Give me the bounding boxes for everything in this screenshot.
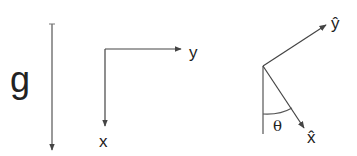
y-axis-label: y xyxy=(189,43,198,62)
gravity-group: g xyxy=(10,24,55,150)
y-hat-label: ŷ xyxy=(331,14,340,33)
theta-label: θ xyxy=(273,117,282,135)
gravity-label: g xyxy=(10,59,30,100)
x-axis-label: x xyxy=(99,132,108,151)
x-hat-label: x̂ xyxy=(307,128,316,147)
y-hat-arrow xyxy=(263,25,326,66)
fixed-axes-group: y x xyxy=(99,43,198,151)
angle-arc xyxy=(263,108,292,114)
x-hat-arrow xyxy=(263,66,304,128)
coordinate-diagram: g y x θ ŷ x̂ xyxy=(0,0,357,156)
rotated-axes-group: θ ŷ x̂ xyxy=(263,14,340,147)
